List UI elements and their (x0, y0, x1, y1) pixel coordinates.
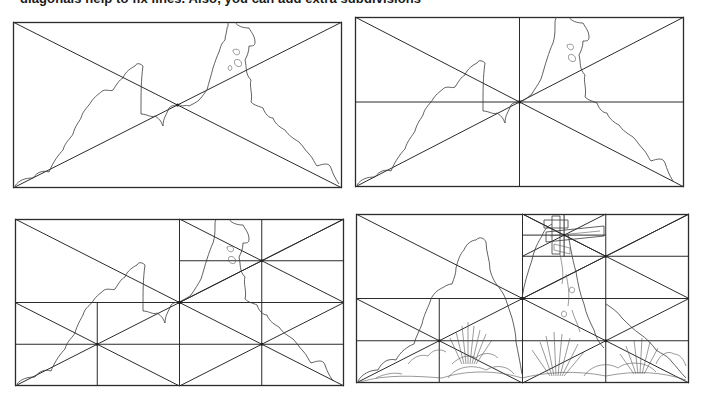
intersection-node (521, 297, 525, 301)
intersection-node (438, 339, 441, 342)
intersection-node (260, 259, 263, 262)
panel-2-centre-lines (355, 17, 684, 187)
panel-1-drawing (13, 22, 342, 188)
intersection-node (604, 339, 607, 342)
panel-2-drawing (355, 17, 684, 187)
panel-4-finished-drawing (356, 214, 689, 383)
intersection-node (563, 234, 566, 237)
panel-4-drawing (356, 214, 689, 383)
intersection-node (518, 100, 522, 104)
intersection-node (176, 103, 179, 106)
rock-tower-right (522, 224, 686, 378)
intersection-node (604, 255, 607, 258)
intersection-node (178, 301, 182, 305)
panel-3-subdivided-quadrants (15, 219, 344, 386)
bushes-left (358, 238, 522, 381)
panel-3-drawing (15, 219, 344, 386)
intersection-node (96, 343, 99, 346)
panel-1-diagonals (13, 22, 342, 188)
diagonal-line (15, 219, 180, 303)
caption-text: diagonals help to fix lines. Also, you c… (20, 0, 421, 6)
intersection-node (260, 343, 263, 346)
